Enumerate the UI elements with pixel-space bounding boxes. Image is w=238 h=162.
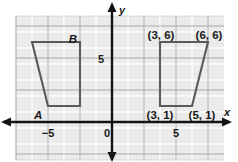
y-tick-label-5: 5 xyxy=(98,53,104,65)
vertex-label-b: B xyxy=(69,33,77,45)
origin-label: 0 xyxy=(104,127,110,139)
x-axis-label: x xyxy=(223,106,231,118)
y-axis-label: y xyxy=(118,4,126,16)
coord-label-3-6: (3, 6) xyxy=(148,29,175,41)
vertex-label-a: A xyxy=(33,109,42,121)
coord-label-5-1: (5, 1) xyxy=(189,109,216,121)
coordinate-plane-svg: B A (3, 6) (6, 6) (3, 1) (5, 1) −5 0 5 5… xyxy=(0,0,238,162)
x-tick-label-5: 5 xyxy=(173,127,179,139)
coordinate-plane-figure: B A (3, 6) (6, 6) (3, 1) (5, 1) −5 0 5 5… xyxy=(0,0,238,162)
coord-label-3-1: (3, 1) xyxy=(147,109,174,121)
coord-label-6-6: (6, 6) xyxy=(196,29,223,41)
x-tick-label-neg5: −5 xyxy=(42,127,55,139)
